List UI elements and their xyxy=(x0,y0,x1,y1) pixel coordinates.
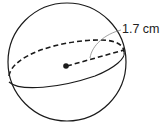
center-point xyxy=(63,63,69,69)
radius-label: 1.7 cm xyxy=(122,22,160,36)
radius-line-dashed xyxy=(67,50,124,66)
label-leader-line xyxy=(90,30,121,58)
sphere-outline xyxy=(8,3,126,121)
sphere-diagram xyxy=(0,0,166,125)
